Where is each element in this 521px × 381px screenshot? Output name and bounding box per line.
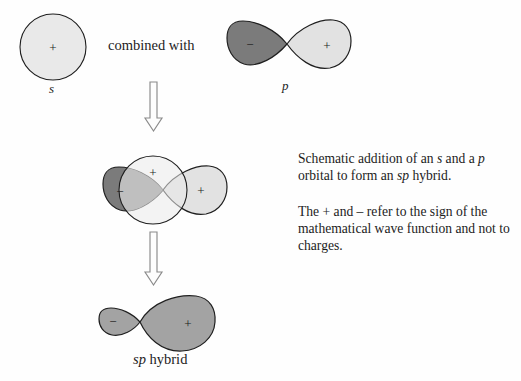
down-arrow-top-shape — [145, 82, 162, 131]
caption-p1-italic-p: p — [478, 151, 485, 166]
p-orbital-label: p — [282, 79, 289, 92]
combined-with-label: combined with — [108, 38, 195, 53]
s-orbital-plus-sign: + — [49, 41, 56, 54]
sp-hybrid-plus-sign: + — [184, 317, 191, 330]
sp-hybrid-positive-lobe-shape — [140, 296, 215, 351]
combined-minus-sign: − — [116, 185, 123, 198]
caption-p1-part1: Schematic addition of an — [298, 151, 437, 166]
p-orbital-positive-lobe-shape — [287, 20, 351, 69]
p-orbital-plus-sign: + — [323, 39, 330, 52]
caption-p1-part4: hybrid. — [409, 168, 451, 183]
p-orbital-minus-sign: − — [246, 38, 253, 51]
sp-hybrid-label-italic: sp — [133, 351, 146, 367]
combined-plus-sign: + — [197, 184, 204, 197]
sp-hybrid-negative-lobe-shape — [99, 308, 140, 335]
sp-hybrid-label: sp hybrid — [133, 352, 187, 367]
figure-graphics — [0, 0, 521, 381]
caption-p1-part2: and a — [442, 151, 478, 166]
p-orbital-negative-lobe-shape — [227, 21, 287, 65]
combined-s-plus-sign: + — [149, 166, 156, 179]
s-orbital-label: s — [49, 82, 54, 95]
caption-paragraph-2: The + and – refer to the sign of the mat… — [298, 203, 516, 255]
caption-paragraph-1: Schematic addition of an s and a p orbit… — [298, 150, 516, 184]
sp-hybrid-label-rest: hybrid — [146, 351, 187, 367]
orbital-hybridization-figure: + − + + − + − + combined with s p sp hyb… — [0, 0, 521, 381]
caption-p1-italic-sp: sp — [397, 168, 409, 183]
down-arrow-bottom-shape — [145, 232, 162, 285]
caption-p1-part3: orbital to form an — [298, 168, 397, 183]
sp-hybrid-minus-sign: − — [109, 315, 116, 328]
